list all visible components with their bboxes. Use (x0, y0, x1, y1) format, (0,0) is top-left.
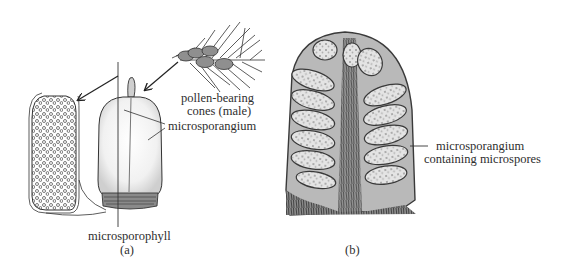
panel-b-micrograph (286, 32, 428, 215)
magnified-microsporangium (29, 93, 106, 215)
pine-branch-icon (172, 22, 265, 92)
arrow-to-sac (78, 76, 118, 100)
caption-b: (b) (345, 244, 360, 257)
label-containing-microspores: containing microspores (424, 153, 541, 166)
arrow-to-sporophyll (145, 62, 178, 90)
caption-a: (a) (120, 244, 134, 257)
figure-canvas (0, 0, 569, 270)
label-microsporophyll: microsporophyll (88, 230, 171, 243)
microsporophyll-drawing (98, 62, 165, 227)
label-microsporangium-a: microsporangium (168, 120, 256, 133)
label-cones-male: cones (male) (187, 105, 251, 118)
